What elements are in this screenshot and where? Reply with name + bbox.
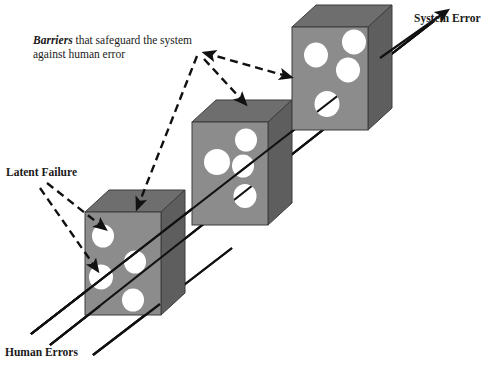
- back-barrier-slab-side-face: [368, 5, 392, 130]
- hole: [342, 30, 366, 55]
- hole: [204, 149, 230, 175]
- human-error-trajectory-2-tail: [50, 306, 100, 345]
- human-errors-label: Human Errors: [5, 345, 78, 359]
- human-error-trajectory-1-tail: [31, 288, 90, 334]
- barriers-to-middle-slab-connector: [204, 59, 240, 98]
- system-error-label: System Error: [414, 11, 481, 25]
- back-slab-hole-line-segments: [31, 21, 434, 334]
- barriers-label: Barriers that safeguard the system again…: [33, 33, 218, 62]
- hole: [122, 289, 144, 312]
- hole: [336, 58, 360, 83]
- latent-failure-to-hole-1-connector: [47, 183, 99, 224]
- barriers-to-front-slab-connector: [140, 56, 197, 201]
- hole: [304, 43, 328, 68]
- hole: [234, 184, 257, 208]
- barriers-label-emphasis: Barriers: [33, 34, 73, 46]
- hole: [92, 225, 114, 248]
- latent-failure-label: Latent Failure: [6, 165, 77, 179]
- hole: [235, 129, 257, 152]
- front-barrier-slab-side-face: [161, 190, 185, 315]
- swiss-cheese-diagram: Barriers that safeguard the system again…: [0, 0, 492, 375]
